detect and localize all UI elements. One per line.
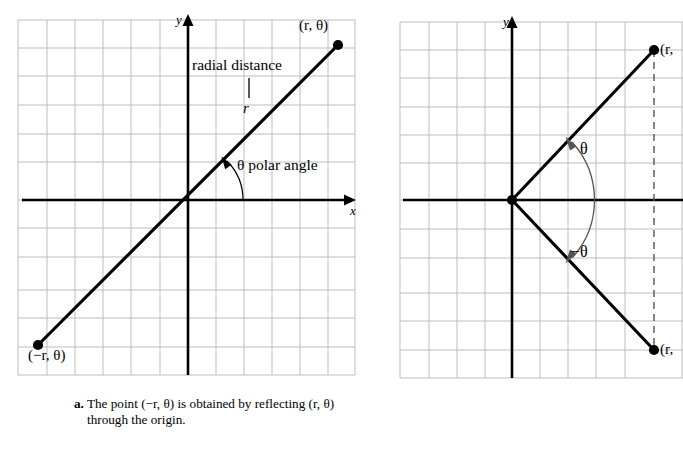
point-marker-r-theta-a (333, 40, 343, 50)
angle-label-theta-b: θ (580, 140, 588, 158)
caption-a-text: The point (−r, θ) is obtained by reflect… (87, 396, 334, 427)
x-axis-label-a: x (350, 203, 356, 219)
figure-root: y x (r, θ) radial distance r θ polar ang… (0, 0, 683, 452)
panel-a-plot (0, 0, 365, 395)
point-marker-r-theta-b (649, 45, 659, 55)
point-label-r-theta-a: (r, θ) (299, 17, 328, 34)
panel-b-plot (365, 0, 683, 395)
point-marker-r-negtheta-b (649, 345, 659, 355)
r-label-a: r (243, 100, 249, 117)
panel-b: y (r, (r, θ −θ b. The point (r, −θ) is o… (365, 0, 683, 452)
ray-negative-angle-b (512, 200, 654, 350)
polar-angle-label-a: θ polar angle (237, 156, 318, 174)
origin-marker-b (507, 195, 517, 205)
caption-a-marker: a. (74, 396, 84, 411)
point-label-r-theta-b: (r, (660, 41, 673, 58)
caption-a: a. The point (−r, θ) is obtained by refl… (74, 396, 337, 427)
panel-a: y x (r, θ) radial distance r θ polar ang… (0, 0, 365, 452)
ray-positive-angle-b (512, 50, 654, 200)
point-label-r-negtheta-b: (r, (660, 341, 673, 358)
point-label-neg-r-theta-a: (−r, θ) (28, 347, 66, 364)
y-axis-label-b: y (503, 14, 509, 30)
radial-distance-label-a: radial distance (192, 56, 282, 74)
angle-label-negative-theta-b: −θ (571, 243, 588, 261)
y-axis-label-a: y (176, 12, 182, 28)
